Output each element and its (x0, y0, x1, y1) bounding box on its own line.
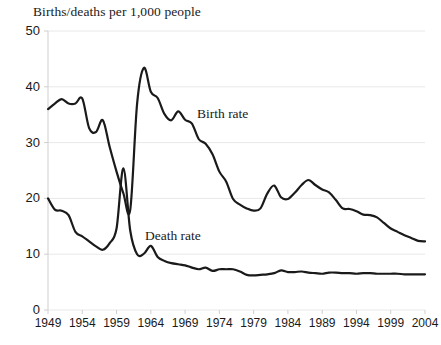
data-series (48, 68, 425, 276)
death-rate-line (48, 168, 425, 275)
x-tick-label: 2004 (405, 316, 441, 330)
death-rate-annotation: Death rate (145, 228, 201, 244)
tick-marks (44, 31, 425, 314)
y-tick-label: 30 (14, 135, 40, 150)
gridlines (48, 31, 425, 310)
y-tick-label: 10 (14, 246, 40, 261)
y-tick-label: 0 (14, 302, 40, 317)
line-chart-plot (0, 0, 441, 345)
chart-container: Births/deaths per 1,000 people 010203040… (0, 0, 441, 345)
y-tick-label: 40 (14, 79, 40, 94)
y-tick-label: 50 (14, 23, 40, 38)
birth-rate-annotation: Birth rate (197, 106, 248, 122)
y-tick-label: 20 (14, 190, 40, 205)
birth-rate-line (48, 68, 425, 242)
